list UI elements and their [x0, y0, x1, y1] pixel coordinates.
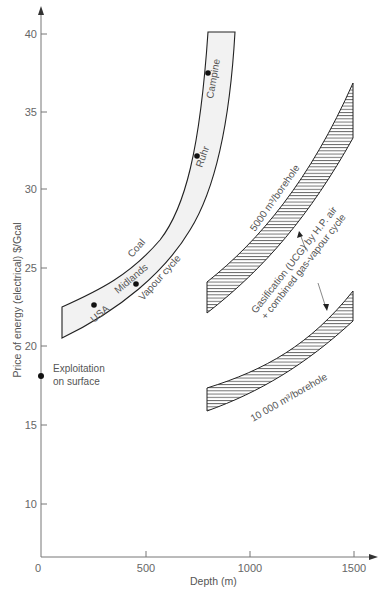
y-axis-label: Price of energy (electrical) $/Gcal: [11, 222, 23, 377]
y-tick-25: 25: [25, 262, 37, 274]
y-tick-10: 10: [25, 498, 37, 510]
point-usa: [91, 302, 97, 308]
y-tick-40: 40: [25, 28, 37, 40]
chart: 40 35 30 25 20 15 10 Price of energy (el…: [0, 0, 385, 593]
x-tick-1000: 1000: [238, 562, 262, 574]
x-tick-500: 500: [137, 562, 155, 574]
x-tick-0: 0: [35, 562, 41, 574]
y-tick-35: 35: [25, 106, 37, 118]
y-tick-20: 20: [25, 340, 37, 352]
x-tick-1500: 1500: [342, 562, 366, 574]
y-axis-arrow-icon: [38, 6, 44, 15]
label-coal: Coal: [125, 237, 147, 260]
label-surface-1: Exploitation: [53, 363, 105, 374]
arrow-up-icon: [297, 231, 303, 238]
label-surface-2: on surface: [53, 376, 100, 387]
x-axis-label: Depth (m): [190, 575, 237, 587]
band-10000-borehole: [207, 291, 353, 411]
x-axis-arrow-icon: [369, 554, 378, 560]
y-tick-30: 30: [25, 183, 37, 195]
x-axis: 0 500 1000 1500 Depth (m): [35, 551, 378, 587]
arrow-down-icon: [323, 304, 329, 311]
y-tick-15: 15: [25, 419, 37, 431]
point-surface: [38, 373, 44, 379]
y-axis: 40 35 30 25 20 15 10 Price of energy (el…: [11, 6, 47, 557]
